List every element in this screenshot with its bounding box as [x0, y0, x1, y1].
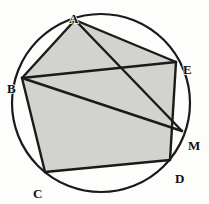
- vertex-label-m: M: [188, 138, 200, 153]
- vertex-label-d: D: [175, 171, 184, 186]
- vertex-label-a: A: [69, 11, 79, 26]
- vertex-label-e: E: [183, 62, 192, 77]
- vertex-label-b: B: [7, 81, 16, 96]
- vertex-label-c: C: [33, 186, 42, 201]
- figure-canvas: ABCDEM: [0, 0, 209, 204]
- geometry-figure: ABCDEM: [0, 0, 209, 204]
